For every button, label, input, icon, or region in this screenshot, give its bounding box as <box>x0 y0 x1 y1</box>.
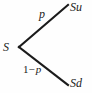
down-branch-probability-label: 1−p <box>23 64 41 75</box>
up-branch-probability-label: p <box>39 8 45 20</box>
down-node-label: Sd <box>70 77 82 89</box>
up-node-label: Su <box>70 1 82 13</box>
binomial-tree-diagram: S Su Sd p 1−p <box>0 0 92 93</box>
root-node-label: S <box>3 41 9 53</box>
down-probability-prefix: 1− <box>23 63 35 75</box>
down-probability-variable: p <box>36 63 42 75</box>
